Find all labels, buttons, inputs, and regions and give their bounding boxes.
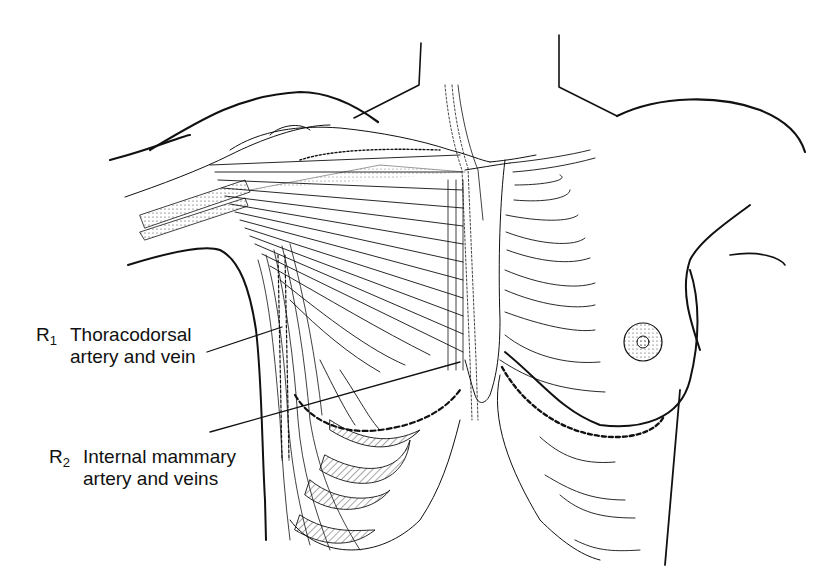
leader-line-r1 [207,327,282,352]
label-r2: R2 Internal mammary artery and veins [49,446,70,468]
left-breast [497,270,697,565]
label-r2-prefix: R2 [49,446,70,467]
lower-ribs [290,360,460,550]
label-r1: R1 Thoracodorsal artery and vein [36,324,57,346]
left-shoulder-outline [617,99,805,350]
neck-outline [354,35,617,118]
leader-lines [207,327,460,432]
label-r2-line1: Internal mammary [83,446,236,468]
label-r1-prefix: R1 [36,324,57,345]
label-r1-line2: artery and vein [70,346,196,368]
leader-line-r2 [210,362,460,432]
label-r1-line1: Thoracodorsal [70,324,191,346]
left-ribs [500,150,640,551]
sternum [465,160,510,403]
internal-mammary-vessels [445,85,483,420]
anatomical-illustration [0,0,830,587]
label-r2-line2: artery and veins [83,468,218,490]
incision-line-left [502,367,663,437]
clavicle [230,125,536,162]
